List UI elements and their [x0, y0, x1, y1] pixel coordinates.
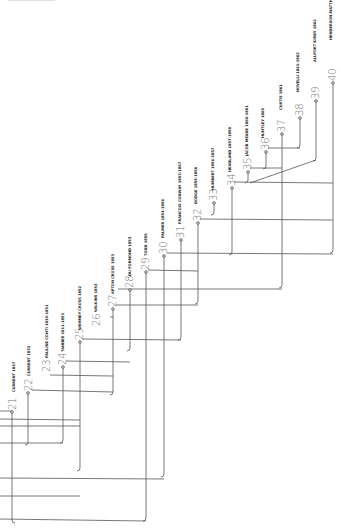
node-29-dot[interactable]	[145, 271, 148, 274]
node-35-number: 35	[242, 157, 253, 170]
node-23-number: 23	[41, 359, 52, 372]
node-29-number: 29	[140, 257, 151, 270]
node-39-number: 39	[310, 86, 321, 99]
node-22-label: CURRENT 1832	[27, 345, 31, 376]
node-35-label: HUMBERT 1856-1857	[211, 147, 215, 190]
node-37-number: 37	[276, 119, 287, 132]
node-24-label: PAULINE CONTI 1830-1851	[45, 304, 49, 358]
node-numbers: 21 22 23 24 25 26 27 28 29 30 31 32 33 3…	[7, 68, 338, 410]
node-22-number: 22	[23, 378, 34, 391]
node-40-dot[interactable]	[332, 82, 335, 85]
node-36-label: HEADLAND 1857-1858	[228, 126, 232, 172]
node-36-number: 36	[260, 137, 271, 150]
node-31-number: 31	[175, 225, 186, 238]
node-27-dot[interactable]	[112, 308, 115, 311]
node-22-dot[interactable]	[27, 392, 30, 395]
node-28-number: 28	[124, 275, 135, 288]
node-40-label: NOVELLI 1861-1862	[296, 52, 300, 92]
node-34-dot[interactable]	[231, 187, 234, 190]
node-26-number: 26	[91, 313, 102, 326]
node-28-label: WILKINS 1853	[94, 283, 98, 312]
node-35-dot[interactable]	[247, 171, 250, 174]
node-31-dot[interactable]	[180, 239, 183, 242]
node-38-number: 38	[294, 103, 305, 116]
node-30-label: DU FORMOND 1853	[128, 236, 132, 276]
node-21-label: CURRENT 1847	[12, 361, 16, 392]
node-34-number: 34	[226, 173, 237, 186]
node-38-label: HUNTLEY 1860	[261, 108, 265, 138]
node-34-label: DODGE 1855-1856	[194, 166, 198, 204]
node-40-number: 40	[327, 68, 338, 81]
node-37-label: JACOB MEADE 1860-1861	[245, 105, 249, 157]
node-33-dot[interactable]	[213, 202, 216, 205]
node-25-dot[interactable]	[79, 341, 82, 344]
node-24-number: 24	[57, 352, 68, 365]
node-32-dot[interactable]	[197, 222, 200, 225]
node-33-label: FRANCOIS CONWAY 1853-1857	[178, 161, 182, 224]
node-36-dot[interactable]	[265, 151, 268, 154]
node-39-label: CURTIS 1861	[279, 84, 283, 110]
node-21-dot[interactable]	[11, 411, 14, 414]
node-32-label: PALMER 1854-1856	[161, 199, 165, 238]
node-30-dot[interactable]	[163, 255, 166, 258]
node-27-label: WEHMEY CROSS 1852	[78, 285, 82, 330]
node-28-dot[interactable]	[129, 289, 132, 292]
extra-label-1: ALLPORT KIRBY 1862	[313, 19, 317, 62]
node-38-dot[interactable]	[299, 117, 302, 120]
node-29-label: APTON CROSS 1853	[111, 254, 115, 294]
node-24-dot[interactable]	[62, 366, 65, 369]
node-31-label: TODD 1855	[144, 233, 148, 256]
node-21-number: 21	[7, 397, 18, 410]
node-39-dot[interactable]	[315, 100, 318, 103]
node-25-label: TANNER 1811-1853	[61, 313, 65, 352]
node-27-number: 27	[107, 294, 118, 307]
connector-lines	[0, 148, 333, 521]
extra-label-2: HENDERSON MATTHEWS 1862	[329, 0, 333, 40]
node-37-dot[interactable]	[281, 133, 284, 136]
node-30-number: 30	[158, 241, 169, 254]
node-names: CURRENT 1847 CURRENT 1832 PAULINE CONTI …	[12, 0, 333, 392]
stem-lines	[12, 83, 333, 523]
node-32-number: 32	[192, 208, 203, 221]
genealogy-diagram: 21 22 23 24 25 26 27 28 29 30 31 32 33 3…	[0, 0, 341, 529]
